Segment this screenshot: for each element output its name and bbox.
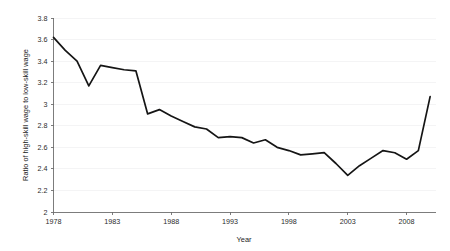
y-tick-label: 2.2 [38,186,48,195]
x-tick-label: 1978 [46,217,62,226]
x-tick-label: 1983 [104,217,120,226]
y-tick-label: 2 [44,208,48,217]
y-tick-label: 2.6 [38,143,48,152]
y-tick-label: 3 [44,100,48,109]
y-tick-label: 3.6 [38,35,48,44]
x-tick-label: 1998 [281,217,297,226]
line-chart-figure: 22.22.42.62.833.23.43.63.8 1978198319881… [0,0,450,251]
x-tick-label: 1988 [163,217,179,226]
y-tick-label: 2.4 [38,164,48,173]
y-tick-label: 3.4 [38,57,48,66]
chart-canvas: 22.22.42.62.833.23.43.63.8 1978198319881… [0,0,450,251]
y-tick-label: 3.2 [38,78,48,87]
x-tick-label: 1993 [222,217,238,226]
x-axis-title: Year [237,235,252,244]
x-tick-label: 2008 [399,217,415,226]
x-tick-label: 2003 [340,217,356,226]
y-tick-label: 3.8 [38,14,48,23]
y-axis-title: Ratio of high-skill wage to low-skill wa… [21,49,30,181]
y-tick-label: 2.8 [38,121,48,130]
